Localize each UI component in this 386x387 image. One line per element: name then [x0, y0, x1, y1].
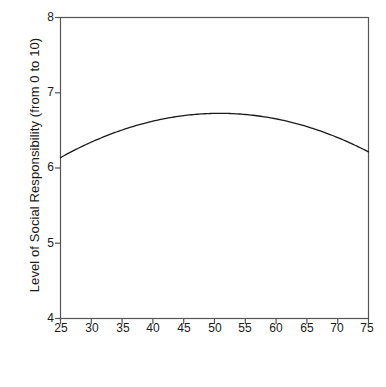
data-series-line [61, 113, 369, 157]
x-tick-marks [61, 319, 369, 325]
plot-frame [61, 18, 369, 319]
plot-area [0, 0, 386, 387]
chart-figure: Level of Social Responsibility (from 0 t… [0, 0, 386, 387]
y-tick-marks [55, 18, 61, 319]
